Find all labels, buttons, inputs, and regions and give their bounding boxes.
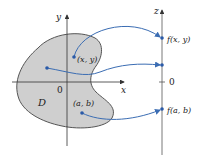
point-ab-label: (a, b) (73, 99, 94, 108)
point-unlabeled (45, 66, 49, 70)
fab-label: f(a, b) (166, 106, 191, 115)
z-point-unlabeled (160, 63, 164, 67)
function-diagram: y x 0 D z 0 (x, y) (a, b) f(x, y) f(a, b… (0, 0, 206, 160)
x-axis-label: x (121, 85, 126, 95)
z-point-fab (160, 107, 164, 111)
fxy-label: f(x, y) (166, 35, 190, 44)
y-axis-label: y (55, 12, 62, 22)
point-ab (80, 111, 84, 115)
xy-origin-label: 0 (57, 85, 63, 95)
z-origin-label: 0 (169, 77, 175, 87)
point-xy-label: (x, y) (77, 55, 97, 64)
point-xy (72, 55, 76, 59)
z-axis-label: z (153, 6, 159, 16)
z-point-fxy (160, 36, 164, 40)
region-label-d: D (37, 97, 46, 108)
region-d (17, 34, 114, 128)
